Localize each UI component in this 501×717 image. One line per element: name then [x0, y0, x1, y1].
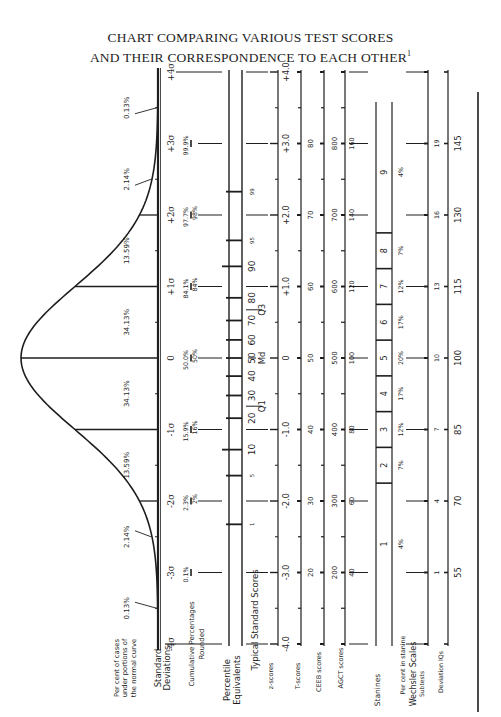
- normal-curve-comparison-chart: 0.13%2.14%13.59%34.13%34.13%13.59%2.14%0…: [0, 0, 501, 717]
- ceeb-score-value: 600: [331, 280, 339, 293]
- stanine-percent-value: 4%: [397, 167, 404, 177]
- t-score-value: 40: [307, 425, 315, 434]
- normal-curve: 0.13%2.14%13.59%34.13%34.13%13.59%2.14%0…: [21, 68, 161, 650]
- z-score-value: -3.0: [282, 565, 291, 581]
- sigma-label: -3σ: [166, 565, 176, 579]
- percentile-value: 99: [249, 188, 255, 195]
- agct-scores-row-label: AGCT scores: [337, 647, 345, 688]
- wechsler-subtest-value: 1: [433, 570, 440, 574]
- ceeb-scores-row-label: CEEB scores: [315, 651, 323, 692]
- z-score-value: +4.0: [282, 62, 291, 81]
- z-score-value: -4.0: [282, 636, 291, 652]
- sigma-label: -1σ: [166, 422, 176, 436]
- stanine-percent-value: 4%: [397, 539, 404, 549]
- z-score-value: +1.0: [282, 277, 291, 296]
- stanine-value: 5: [380, 355, 389, 360]
- stanine-value: 7: [380, 284, 389, 289]
- deviation-iq-row-label: Deviation IQs: [437, 651, 444, 693]
- sigma-label: +4σ: [166, 63, 176, 82]
- cumulative-rounded-value: 50%: [191, 349, 198, 363]
- percentile-value: 60: [247, 334, 257, 346]
- t-scores-row-label: T-scores: [294, 662, 302, 690]
- sigma-label: -2σ: [166, 494, 176, 508]
- wechsler-subtest-value: 13: [433, 282, 440, 290]
- t-score-value: 20: [307, 568, 315, 577]
- stanine-value: 9: [380, 170, 389, 175]
- t-score-value: 60: [307, 282, 315, 291]
- percent-under-curve-label: 2.14%: [123, 168, 131, 191]
- stanine-percent-value: 7%: [397, 460, 404, 470]
- stanine-percent-value: 7%: [397, 246, 404, 256]
- per-cent-in-stanine-row-label: Per cent in stanine: [399, 635, 406, 694]
- score-columns: -4σ-3σ-2σ-1σ0+1σ+2σ+3σ+4σ0.1%2.3%2%15.9%…: [166, 62, 479, 712]
- deviation-iq-value: 145: [453, 135, 463, 151]
- percent-under-curve-row-label: under portions of: [121, 638, 129, 697]
- wechsler-subtest-value: 10: [433, 354, 440, 362]
- z-score-value: -1.0: [282, 422, 291, 438]
- percentile-value: 30: [247, 389, 257, 401]
- subtests-row-label: Subtests: [418, 671, 425, 697]
- percent-under-curve-label: 13.59%: [123, 452, 131, 479]
- percentile-value: 1: [249, 523, 255, 527]
- ceeb-score-value: 500: [331, 351, 339, 364]
- stanine-percent-value: 12%: [397, 279, 404, 293]
- pointer-arrow: [135, 531, 151, 537]
- ceeb-score-value: 300: [331, 494, 339, 507]
- rounded-row-label: Rounded: [198, 629, 206, 660]
- wechsler-scales-row-label: Wechsler Scales: [409, 642, 418, 707]
- percentile-value: 10: [247, 444, 257, 456]
- stanine-percent-value: 20%: [397, 351, 404, 365]
- stanine-percent-value: 17%: [397, 315, 404, 329]
- sigma-label: +1σ: [166, 277, 176, 296]
- sigma-label: +3σ: [166, 134, 176, 153]
- pointer-arrow: [135, 602, 157, 608]
- stanines-row-label: Stanines: [373, 674, 382, 707]
- cumulative-percentage-value: 0.1%: [182, 566, 189, 582]
- z-score-value: 0: [282, 355, 291, 360]
- t-score-value: 30: [307, 497, 315, 506]
- stanine-value: 2: [380, 463, 389, 468]
- wechsler-subtest-value: 19: [433, 139, 440, 147]
- t-score-value: 80: [307, 139, 315, 148]
- median-label: Md: [257, 352, 267, 365]
- stanine-value: 4: [380, 391, 389, 396]
- wechsler-subtest-value: 7: [433, 427, 440, 431]
- percentile-value: 20: [247, 412, 257, 424]
- cumulative-rounded-value: 2%: [191, 494, 198, 504]
- wechsler-subtest-value: 16: [433, 211, 440, 219]
- deviation-iq-value: 70: [453, 496, 463, 507]
- deviation-iq-value: 115: [453, 278, 463, 294]
- percent-under-curve-label: 0.13%: [123, 597, 131, 620]
- percentile-value: 40: [247, 370, 257, 382]
- ceeb-score-value: 400: [331, 423, 339, 436]
- percentile-equivalents-row-label: Percentile: [222, 659, 232, 701]
- z-score-value: +2.0: [282, 205, 291, 224]
- percent-under-curve-label: 0.13%: [123, 96, 131, 119]
- cumulative-percentage-value: 2.3%: [182, 495, 189, 511]
- cumulative-rounded-value: 16%: [191, 420, 198, 434]
- deviation-iq-value: 130: [453, 207, 463, 223]
- ceeb-score-value: 800: [331, 137, 339, 150]
- stanine-value: 3: [380, 427, 389, 432]
- percent-under-curve-row-label: Per cent of cases: [113, 639, 121, 697]
- z-score-value: +3.0: [282, 134, 291, 153]
- cumulative-rounded-value: 84%: [191, 277, 198, 291]
- percentile-value: 5: [249, 473, 255, 477]
- stanine-percent-value: 12%: [397, 422, 404, 436]
- cumulative-percentage-value: 97.7%: [182, 207, 189, 227]
- standard-deviations-row-label: Deviations: [162, 645, 172, 691]
- typical-standard-scores-row-label: Typical Standard Scores: [250, 569, 260, 672]
- stanine-value: 6: [380, 320, 389, 325]
- cumulative-percentages-row-label: Cumulative Percentages: [188, 601, 196, 687]
- cumulative-percentage-value: 84.1%: [182, 278, 189, 298]
- percentile-value: 95: [249, 236, 255, 243]
- percent-under-curve-label: 2.14%: [123, 525, 131, 548]
- deviation-iq-value: 55: [453, 567, 463, 578]
- percent-under-curve-label: 34.13%: [123, 309, 131, 336]
- stanine-value: 8: [380, 248, 389, 253]
- percentile-equivalents-row-label: Equivalents: [232, 655, 242, 705]
- sigma-label: +2σ: [166, 206, 176, 225]
- cumulative-rounded-value: 98%: [191, 206, 198, 220]
- t-score-value: 50: [307, 354, 315, 363]
- percent-under-curve-label: 34.13%: [123, 380, 131, 407]
